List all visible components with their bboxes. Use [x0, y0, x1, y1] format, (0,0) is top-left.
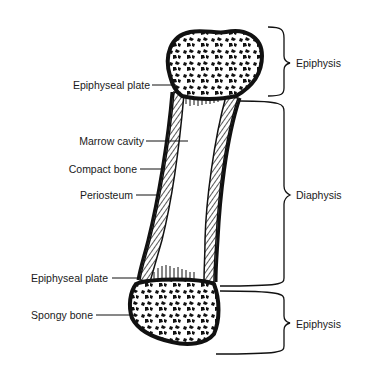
label-epiphysis-top: Epiphysis	[296, 57, 341, 69]
bracket-epiphysis-bottom	[216, 291, 290, 354]
proximal-epiphysis	[168, 31, 262, 99]
compact-bone-shaft	[138, 92, 240, 282]
label-spongy-bone: Spongy bone	[0, 309, 93, 321]
label-epiphyseal-plate-bottom: Epiphyseal plate	[0, 272, 108, 284]
label-diaphysis: Diaphysis	[296, 189, 342, 201]
label-epiphysis-bottom: Epiphysis	[296, 318, 341, 330]
label-periosteum: Periosteum	[20, 189, 133, 201]
label-compact-bone: Compact bone	[20, 163, 137, 175]
bracket-epiphysis-top	[268, 27, 290, 96]
label-epiphyseal-plate-top: Epiphyseal plate	[20, 79, 150, 91]
label-marrow-cavity: Marrow cavity	[20, 135, 144, 147]
distal-epiphysis	[130, 280, 219, 344]
